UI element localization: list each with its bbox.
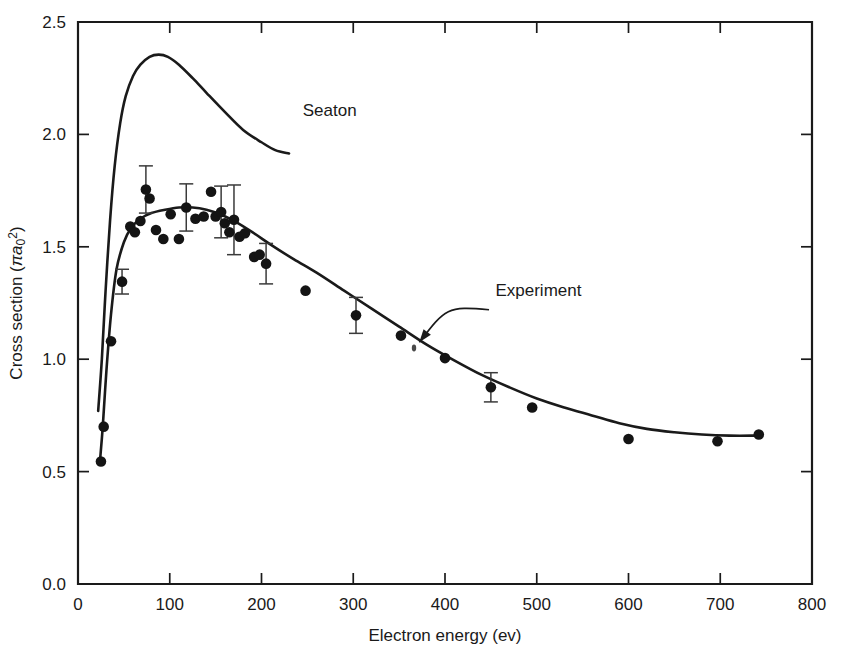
data-point	[220, 218, 231, 229]
data-point	[198, 211, 209, 222]
data-points	[96, 184, 764, 467]
data-point	[158, 234, 169, 245]
data-point	[98, 421, 109, 432]
data-point	[144, 193, 155, 204]
data-point	[206, 186, 217, 197]
data-point	[130, 227, 141, 238]
y-tick-label: 2.5	[42, 13, 66, 32]
x-tick-label: 700	[706, 595, 734, 614]
data-point	[486, 382, 497, 393]
data-point	[351, 310, 362, 321]
data-point	[165, 209, 176, 220]
y-tick-label: 0.0	[42, 575, 66, 594]
chart-figure: 0100200300400500600700800 0.00.51.01.52.…	[0, 0, 841, 651]
data-point	[174, 234, 185, 245]
x-tick-label: 0	[73, 595, 82, 614]
x-tick-label: 300	[339, 595, 367, 614]
y-axis-label-a: a	[7, 245, 26, 254]
ink-speck	[412, 345, 416, 352]
data-point	[117, 276, 128, 287]
data-point	[96, 456, 107, 467]
experiment-arrow-head	[419, 329, 431, 342]
chart-svg: 0100200300400500600700800 0.00.51.01.52.…	[0, 0, 841, 651]
experiment-annotation-label: Experiment	[495, 281, 581, 300]
y-axis-label: Cross section (πa02)	[6, 226, 28, 379]
x-axis-tick-labels: 0100200300400500600700800	[73, 595, 826, 614]
x-tick-label: 600	[614, 595, 642, 614]
seaton-annotation-label: Seaton	[303, 101, 357, 120]
data-point	[216, 207, 227, 218]
y-axis-label-text: Cross section (πa02)	[6, 226, 28, 379]
y-axis-ticks	[78, 134, 89, 471]
x-tick-label: 800	[798, 595, 826, 614]
x-axis-label: Electron energy (ev)	[368, 626, 521, 645]
y-axis-tick-labels: 0.00.51.01.52.02.5	[42, 13, 66, 594]
x-tick-label: 500	[523, 595, 551, 614]
axes-frame	[78, 22, 812, 584]
data-point	[712, 436, 723, 447]
data-point	[440, 353, 451, 364]
data-point	[261, 258, 272, 269]
data-point	[240, 228, 251, 239]
data-point	[396, 330, 407, 341]
data-point	[229, 215, 240, 226]
experiment-annotation-arrow	[419, 308, 489, 342]
data-point	[527, 402, 538, 413]
y-tick-label: 1.0	[42, 350, 66, 369]
x-tick-label: 100	[156, 595, 184, 614]
data-point	[300, 285, 311, 296]
y-axis-label-pi: π	[7, 254, 26, 266]
y-tick-label: 2.0	[42, 125, 66, 144]
data-point	[254, 249, 265, 260]
top-axis-ticks	[170, 22, 721, 33]
y-axis-label-prefix: Cross section (	[7, 266, 26, 380]
x-tick-label: 200	[247, 595, 275, 614]
plot-frame	[78, 22, 812, 584]
y-axis-label-suffix: )	[7, 226, 26, 232]
data-point	[753, 429, 764, 440]
error-bars	[115, 166, 498, 402]
data-point	[623, 434, 634, 445]
data-point	[151, 225, 162, 236]
data-point	[224, 227, 235, 238]
right-axis-ticks	[801, 134, 812, 471]
x-axis-ticks	[170, 573, 721, 584]
y-tick-label: 1.5	[42, 238, 66, 257]
x-tick-label: 400	[431, 595, 459, 614]
data-point	[106, 336, 117, 347]
data-point	[135, 216, 146, 227]
y-tick-label: 0.5	[42, 463, 66, 482]
data-point	[181, 202, 192, 213]
